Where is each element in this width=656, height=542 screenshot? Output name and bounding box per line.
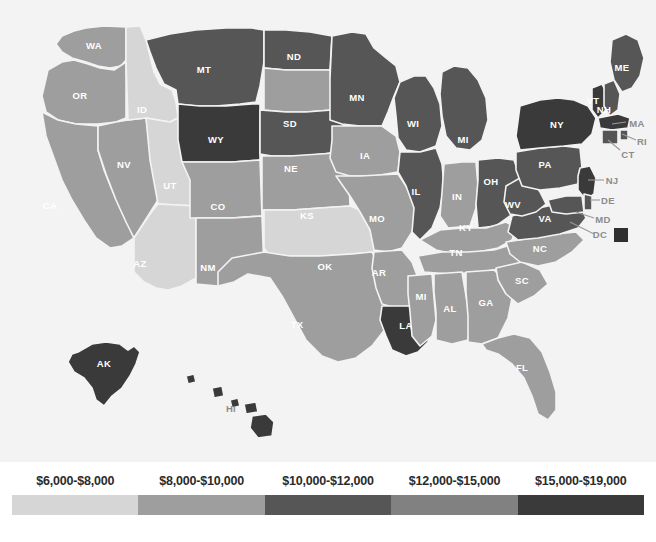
legend-label-4: $15,000-$19,000 (518, 472, 644, 492)
state-label-LA: LA (399, 320, 412, 331)
state-label-OK: OK (318, 261, 333, 272)
state-shape-WI[interactable] (394, 76, 442, 152)
state-shape-HI-5[interactable] (250, 414, 274, 438)
state-label-NC: NC (533, 243, 547, 254)
state-label-TX: TX (291, 319, 304, 330)
state-label-CO: CO (211, 201, 226, 212)
state-label-IL: IL (411, 186, 420, 197)
state-label-CT: CT (621, 149, 634, 160)
state-shape-AK[interactable] (68, 342, 140, 406)
state-label-MO: MO (369, 213, 385, 224)
state-label-GA: GA (479, 297, 494, 308)
state-label-ND: ND (287, 51, 301, 62)
state-label-WI: WI (407, 118, 419, 129)
legend-swatch-1 (138, 495, 264, 515)
state-shape-TX[interactable] (218, 252, 394, 362)
legend-label-3: $12,000-$15,000 (391, 472, 517, 492)
state-label-VA: VA (538, 213, 551, 224)
state-label-SC: SC (515, 275, 529, 286)
state-label-IN: IN (452, 191, 462, 202)
state-label-SD: SD (283, 118, 297, 129)
legend-swatch-0 (12, 495, 138, 515)
legend-label-1: $8,000-$10,000 (138, 472, 264, 492)
state-shape-OK[interactable] (264, 206, 374, 256)
legend-swatch-3 (391, 495, 517, 515)
state-label-MT: MT (197, 64, 211, 75)
state-label-MD: MD (595, 214, 610, 225)
state-label-ID: ID (137, 104, 147, 115)
state-label-MA: MA (629, 118, 644, 129)
state-label-PA: PA (538, 159, 551, 170)
state-label-MN: MN (349, 92, 364, 103)
state-label-DC: DC (593, 229, 607, 240)
state-shape-MS[interactable] (408, 274, 436, 346)
state-label-OR: OR (73, 90, 88, 101)
state-label-OH: OH (484, 176, 499, 187)
state-label-NM: NM (200, 262, 215, 273)
state-label-TN: TN (449, 247, 462, 258)
state-shape-HI-2[interactable] (212, 386, 224, 398)
state-shape-DE[interactable] (584, 194, 592, 210)
state-label-HI: HI (226, 403, 236, 414)
state-label-FL: FL (516, 362, 528, 373)
state-label-AZ: AZ (133, 258, 146, 269)
legend-label-row: $6,000-$8,000 $8,000-$10,000 $10,000-$12… (12, 472, 644, 492)
state-label-NE: NE (284, 163, 298, 174)
state-label-AL: AL (443, 303, 456, 314)
state-label-WY: WY (208, 134, 224, 145)
state-label-RI: RI (637, 136, 647, 147)
us-map-svg: WA OR CA NV ID UT AZ MT WY CO NM ND SD N… (0, 0, 656, 462)
state-label-AR: AR (372, 267, 386, 278)
legend-swatch-4 (518, 495, 644, 515)
state-label-NH: NH (597, 104, 611, 115)
state-label-CA: CA (43, 200, 57, 211)
state-label-KS: KS (300, 210, 314, 221)
state-label-KY: KY (459, 222, 473, 233)
choropleth-map-page: WA OR CA NV ID UT AZ MT WY CO NM ND SD N… (0, 0, 656, 542)
us-map-canvas: WA OR CA NV ID UT AZ MT WY CO NM ND SD N… (0, 0, 656, 462)
state-label-DE: DE (601, 195, 615, 206)
state-shape-HI-4[interactable] (244, 402, 258, 414)
state-shape-FL[interactable] (482, 334, 556, 420)
dc-marker (614, 228, 628, 242)
state-label-NJ: NJ (606, 175, 619, 186)
state-label-MS: MI (415, 291, 426, 302)
state-label-AK: AK (97, 358, 111, 369)
state-label-ME: ME (615, 62, 630, 73)
state-label-UT: UT (163, 180, 176, 191)
state-shape-MD[interactable] (548, 196, 584, 214)
state-label-IA: IA (360, 150, 370, 161)
state-shape-SD[interactable] (264, 68, 332, 112)
state-label-WV: WV (505, 199, 521, 210)
legend-label-2: $10,000-$12,000 (265, 472, 391, 492)
state-label-NV: NV (117, 159, 131, 170)
state-shape-HI-1[interactable] (186, 374, 196, 384)
state-label-NY: NY (550, 119, 564, 130)
state-shape-MN[interactable] (330, 32, 400, 126)
state-label-MI: MI (457, 134, 468, 145)
map-legend: $6,000-$8,000 $8,000-$10,000 $10,000-$12… (0, 462, 656, 542)
state-label-WA: WA (86, 40, 102, 51)
legend-label-0: $6,000-$8,000 (12, 472, 138, 492)
legend-swatch-2 (265, 495, 391, 515)
legend-color-bar (12, 495, 644, 515)
